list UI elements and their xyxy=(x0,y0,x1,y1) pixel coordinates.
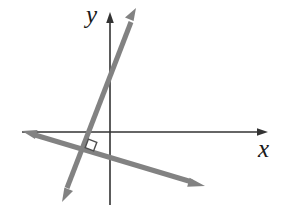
steep-line xyxy=(62,8,136,202)
shallow-line-arrow-left-icon xyxy=(22,130,38,139)
y-axis xyxy=(106,12,114,205)
y-axis-label: y xyxy=(86,2,97,27)
shallow-line xyxy=(22,130,205,187)
steep-line-arrow-up-icon xyxy=(125,8,136,21)
x-axis xyxy=(22,128,268,136)
shallow-line-arrow-right-icon xyxy=(187,178,205,187)
x-axis-label: x xyxy=(258,136,269,161)
steep-line-arrow-down-icon xyxy=(62,188,73,202)
coordinate-plane-figure: y x xyxy=(0,0,283,214)
figure-canvas xyxy=(0,0,283,214)
shallow-line-segment xyxy=(35,135,192,182)
arrow-up-icon xyxy=(106,12,114,23)
